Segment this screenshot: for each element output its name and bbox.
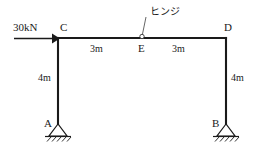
dimension-label-span-right: 3m <box>172 43 185 54</box>
support-b-triangle <box>217 124 235 136</box>
dimension-label-height-left: 4m <box>38 72 51 83</box>
hinge-icon <box>140 34 144 38</box>
support-a-hatching <box>47 137 71 142</box>
hinge-label: ヒンジ <box>150 6 180 17</box>
structural-frame-diagram: 30kN ヒンジ C D E A B 3m 3m 4m 4m <box>0 0 262 147</box>
hinge-leader-line <box>143 17 147 34</box>
node-label-d: D <box>224 21 232 33</box>
load-arrow <box>14 34 60 44</box>
load-magnitude-label: 30kN <box>13 21 38 33</box>
node-label-b: B <box>212 117 219 129</box>
node-label-e: E <box>138 42 145 54</box>
hinge-annotation <box>140 17 146 39</box>
node-label-c: C <box>60 21 67 33</box>
diagram-canvas: 30kN ヒンジ C D E A B 3m 3m 4m 4m <box>0 0 262 147</box>
dimension-label-height-right: 4m <box>231 72 244 83</box>
support-b-hatching <box>215 137 239 142</box>
node-label-a: A <box>44 117 52 129</box>
dimension-label-span-left: 3m <box>90 43 103 54</box>
